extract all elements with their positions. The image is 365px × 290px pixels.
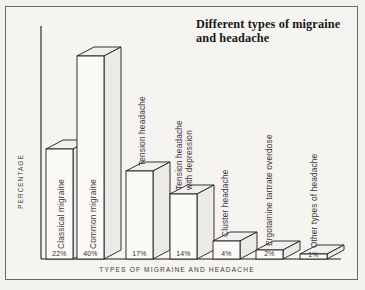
bar-value-ergotamine-tartrate-overdose: 2% [256, 250, 283, 257]
bar-label-other-types-of-headache: Other types of headache [310, 154, 319, 248]
bar-common-migraine [77, 47, 121, 259]
chart-title-line-2: and headache [196, 31, 269, 45]
bar-label-common-migraine: Common migraine [89, 179, 98, 249]
chart-title: Different types of migraineand headache [196, 17, 356, 45]
bar-label-tension-headache-with-depression-line-2: with depression [185, 130, 194, 190]
x-axis-label: TYPES OF MIGRAINE AND HEADACHE [44, 266, 310, 273]
bar-tension-headache-with-depression [170, 185, 214, 259]
chart-title-line-1: Different types of migraine [196, 17, 340, 31]
bar-value-classical-migraine: 22% [46, 250, 73, 257]
bar-value-common-migraine: 40% [77, 250, 104, 257]
bar-tension-headache [126, 162, 170, 259]
bar-label-tension-headache-with-depression-line-1: Tension headache [175, 120, 184, 190]
bar-value-tension-headache: 17% [126, 250, 153, 257]
bar-label-cluster-headache: Cluster headache [221, 170, 230, 237]
bar-value-other-types-of-headache: 1% [300, 251, 327, 258]
chart-figure: Different types of migraineand headache … [0, 0, 365, 290]
bar-label-tension-headache: Tension headache [138, 96, 147, 166]
y-axis-label: PERCENTAGE [17, 142, 24, 222]
bar-value-tension-headache-with-depression: 14% [170, 250, 197, 257]
bar-label-ergotamine-tartrate-overdose: Ergotamine tartrate overdose [265, 134, 274, 246]
bar-label-classical-migraine: Classical migraine [57, 179, 66, 249]
bar-value-cluster-headache: 4% [213, 250, 240, 257]
